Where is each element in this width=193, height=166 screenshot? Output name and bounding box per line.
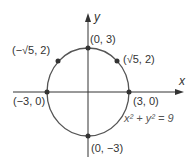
point-sqrt5-2 [115, 59, 120, 64]
y-axis-arrow-icon [85, 13, 91, 22]
label-0-neg3: (0, −3) [91, 142, 123, 154]
label-neg3-0: (−3, 0) [13, 95, 45, 107]
label-0-3: (0, 3) [90, 33, 116, 45]
point-0-3 [86, 46, 91, 51]
point-3-0 [127, 90, 132, 95]
equation-label: x² + y² = 9 [123, 112, 174, 124]
y-axis-label: y [93, 10, 101, 24]
label-neg-sqrt5-2: (−√5, 2) [12, 44, 50, 56]
x-axis-arrow-icon [175, 89, 184, 95]
label-sqrt5-2: (√5, 2) [123, 53, 155, 65]
label-3-0: (3, 0) [133, 95, 159, 107]
point-0-neg3 [86, 134, 91, 139]
x-axis-label: x [178, 74, 186, 88]
circle-diagram: x y (0, 3) (√5, 2) (−√5, 2) (−3, 0) (3, … [0, 0, 193, 166]
point-neg-sqrt5-2 [56, 59, 61, 64]
point-neg3-0 [45, 90, 50, 95]
